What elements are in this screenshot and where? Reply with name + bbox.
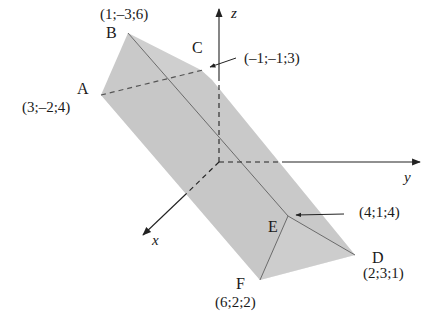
vertex-label-F: F: [236, 276, 245, 292]
vertex-coords-A: (3;–2;4): [22, 100, 70, 115]
x-axis: [143, 194, 186, 235]
vertex-coords-F: (6;2;2): [215, 295, 256, 310]
vertex-coords-D: (2;3;1): [363, 266, 404, 281]
x-axis-label: x: [152, 233, 159, 248]
z-axis-label: z: [231, 6, 237, 21]
prism-body: [101, 33, 355, 280]
vertex-label-C: C: [192, 40, 203, 56]
face-ACDF-bottom: [101, 70, 355, 280]
vertex-coords-C: (–1;–1;3): [244, 51, 300, 66]
pointer-arrow-C: [210, 58, 236, 67]
vertex-coords-E: (4;1;4): [359, 205, 400, 220]
vertex-label-A: A: [77, 81, 89, 97]
vertex-label-B: B: [106, 25, 117, 41]
y-axis-label: y: [404, 170, 411, 185]
vertex-label-E: E: [268, 219, 278, 235]
vertex-coords-B: (1;–3;6): [100, 7, 148, 22]
diagram-canvas: [0, 0, 425, 321]
prism-diagram: z y x A (3;–2;4) B (1;–3;6) C (–1;–1;3) …: [0, 0, 425, 321]
vertex-label-D: D: [372, 250, 384, 266]
